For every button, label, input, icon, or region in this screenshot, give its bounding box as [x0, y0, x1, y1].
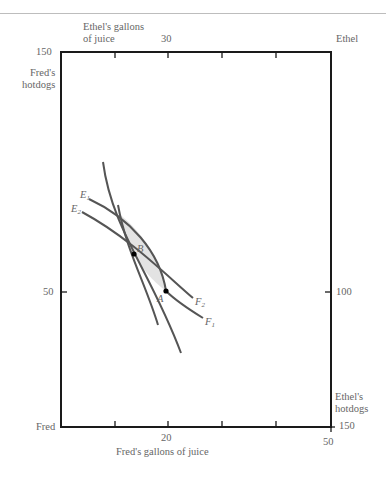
fred-origin-label: Fred: [36, 421, 55, 433]
left-top-label: 150: [36, 46, 52, 58]
curve-label-E1: E1: [80, 189, 90, 204]
right-bottom-label: 150: [339, 420, 355, 432]
bottom-tick-label: 20: [161, 432, 172, 444]
right-axis-label: Ethel's hotdogs: [335, 391, 368, 415]
curve-label-F2: F2: [195, 296, 205, 311]
point-B-marker: [131, 251, 136, 256]
top-axis-label: Ethel's gallons of juice: [83, 21, 144, 45]
box-frame: [61, 52, 331, 427]
edgeworth-box-diagram: [0, 0, 386, 483]
point-label-B: B: [137, 243, 143, 255]
curve-label-E2: E2: [71, 203, 81, 218]
bottom-end-label: 50: [323, 436, 334, 448]
left-axis-label: Fred's hotdogs: [22, 67, 55, 91]
left-tick-label: 50: [43, 286, 54, 298]
curve-label-F1: F1: [205, 316, 215, 331]
bottom-axis-label: Fred's gallons of juice: [116, 446, 209, 458]
point-label-A: A: [157, 293, 163, 305]
top-tick-label: 30: [161, 33, 172, 45]
ethel-origin-label: Ethel: [336, 33, 358, 45]
right-tick-label: 100: [336, 286, 352, 298]
point-A-marker: [163, 288, 168, 293]
